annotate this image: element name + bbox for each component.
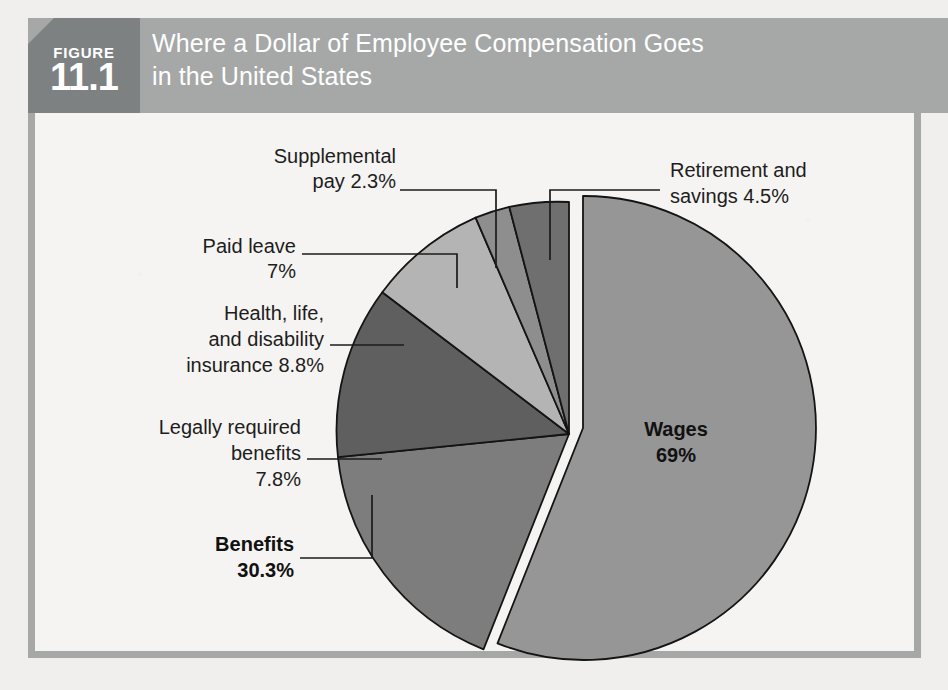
label-legally-required-line1: Legally required bbox=[159, 416, 301, 438]
label-supplemental-pay-line2: pay 2.3% bbox=[313, 170, 397, 192]
label-benefits-line2: 30.3% bbox=[237, 559, 294, 581]
label-wages-line1: Wages bbox=[644, 418, 708, 440]
label-supplemental-pay-line1: Supplemental bbox=[274, 145, 396, 167]
label-benefits-line1: Benefits bbox=[215, 533, 294, 555]
label-wages-line2: 69% bbox=[656, 444, 696, 466]
label-health-insurance-line3: insurance 8.8% bbox=[186, 354, 324, 376]
label-paid-leave-line1: Paid leave bbox=[203, 235, 296, 257]
label-retirement-savings-line1: Retirement and bbox=[670, 159, 807, 181]
label-retirement-savings-line2: savings 4.5% bbox=[670, 185, 789, 207]
label-legally-required-line3: 7.8% bbox=[255, 468, 301, 490]
label-legally-required-line2: benefits bbox=[231, 442, 301, 464]
pie-chart: Supplemental pay 2.3% Retirement and sav… bbox=[0, 0, 948, 690]
label-health-insurance-line2: and disability bbox=[208, 328, 324, 350]
figure-root: FIGURE 11.1 Where a Dollar of Employee C… bbox=[0, 0, 948, 690]
label-paid-leave-line2: 7% bbox=[267, 260, 296, 282]
label-health-insurance-line1: Health, life, bbox=[224, 302, 324, 324]
